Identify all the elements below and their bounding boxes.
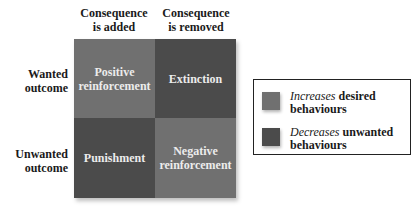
column-header-removed: Consequence is removed xyxy=(155,6,237,34)
row-header-line: outcome xyxy=(2,81,68,95)
legend-label: Increases desired behaviours xyxy=(290,90,376,116)
legend-line2: behaviours xyxy=(290,138,347,152)
cell-label: reinforcement xyxy=(78,79,150,93)
column-header-line: Consequence xyxy=(73,6,155,20)
row-header-line: outcome xyxy=(2,161,68,175)
column-header-line: is removed xyxy=(155,20,237,34)
dark-swatch-icon xyxy=(262,128,280,146)
cell-extinction: Extinction xyxy=(155,39,236,118)
row-header-line: Unwanted xyxy=(2,147,68,161)
legend: Increases desired behaviours Decreases u… xyxy=(253,79,411,155)
row-header-wanted: Wanted outcome xyxy=(2,67,68,95)
cell-label: Positive xyxy=(78,65,150,79)
legend-item-decreases: Decreases unwanted behaviours xyxy=(262,126,393,152)
cell-label: Extinction xyxy=(169,72,222,86)
cell-label: Negative xyxy=(159,144,231,158)
column-header-line: is added xyxy=(73,20,155,34)
cell-positive-reinforcement: Positivereinforcement xyxy=(74,39,155,118)
legend-rest: unwanted xyxy=(340,125,394,139)
legend-rest: desired xyxy=(336,89,376,103)
consequence-matrix: Positivereinforcement Extinction Punishm… xyxy=(74,39,236,198)
cell-label: Punishment xyxy=(84,151,145,165)
column-header-added: Consequence is added xyxy=(73,6,155,34)
row-header-line: Wanted xyxy=(2,67,68,81)
cell-negative-reinforcement: Negativereinforcement xyxy=(155,118,236,198)
cell-label: reinforcement xyxy=(159,158,231,172)
row-header-unwanted: Unwanted outcome xyxy=(2,147,68,175)
legend-item-increases: Increases desired behaviours xyxy=(262,90,376,116)
light-swatch-icon xyxy=(262,92,280,110)
column-header-line: Consequence xyxy=(155,6,237,20)
legend-line2: behaviours xyxy=(290,102,347,116)
cell-punishment: Punishment xyxy=(74,118,155,198)
legend-emphasis: Increases xyxy=(290,89,336,103)
legend-label: Decreases unwanted behaviours xyxy=(290,126,393,152)
legend-emphasis: Decreases xyxy=(290,125,340,139)
